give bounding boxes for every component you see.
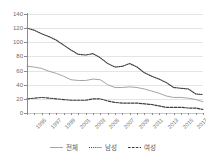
x-axis-tick-label: 2003: [93, 117, 106, 130]
x-axis-tick-label: 1999: [64, 117, 77, 130]
x-axis-tick: [64, 113, 65, 115]
x-axis-tick: [181, 113, 182, 115]
x-axis-tick: [174, 113, 175, 115]
x-axis-tick: [100, 113, 101, 115]
x-axis-tick: [137, 113, 138, 115]
x-axis-tick: [93, 113, 94, 115]
x-axis-tick: [144, 113, 145, 115]
x-axis-tick-label: 1995: [35, 117, 48, 130]
x-axis-tick: [188, 113, 189, 115]
x-axis-tick-label: 1997: [49, 117, 62, 130]
x-axis-tick: [203, 113, 204, 115]
x-axis-tick: [86, 113, 87, 115]
x-axis-tick: [71, 113, 72, 115]
x-axis-tick: [108, 113, 109, 115]
legend-item-남성[interactable]: 남성: [89, 144, 117, 151]
legend-label: 전체: [66, 144, 78, 151]
x-axis-tick: [78, 113, 79, 115]
legend-item-전체[interactable]: 전체: [50, 144, 78, 151]
x-axis-tick: [42, 113, 43, 115]
x-axis-tick-label: 2013: [167, 117, 180, 130]
chart-legend: 전체남성여성: [0, 140, 206, 154]
line-chart: 140120100806040200 199519971999200120032…: [0, 0, 206, 159]
x-axis-tick-label: 2015: [181, 117, 194, 130]
legend-label: 남성: [105, 144, 117, 151]
legend-label: 여성: [144, 144, 156, 151]
x-axis-tick-label: 2001: [79, 117, 92, 130]
x-axis-tick: [56, 113, 57, 115]
x-axis-tick: [27, 113, 28, 115]
legend-item-여성[interactable]: 여성: [128, 144, 156, 151]
x-axis-tick-label: 2009: [137, 117, 150, 130]
legend-swatch-icon: [89, 145, 102, 150]
legend-swatch-icon: [128, 145, 141, 150]
x-axis-tick: [152, 113, 153, 115]
x-axis-tick: [49, 113, 50, 115]
x-axis-tick: [34, 113, 35, 115]
x-axis-tick-label: 2007: [123, 117, 136, 130]
x-axis-tick: [196, 113, 197, 115]
legend-swatch-icon: [50, 145, 63, 150]
x-axis-tick: [115, 113, 116, 115]
x-axis-tick: [130, 113, 131, 115]
x-axis-labels: 1995199719992001200320052007200920112013…: [0, 0, 206, 159]
x-axis-tick-label: 2011: [152, 117, 165, 130]
x-axis-tick-label: 2005: [108, 117, 121, 130]
x-axis-tick-label: 2017: [196, 117, 206, 130]
x-axis-tick: [159, 113, 160, 115]
x-axis-tick: [166, 113, 167, 115]
x-axis-tick: [122, 113, 123, 115]
